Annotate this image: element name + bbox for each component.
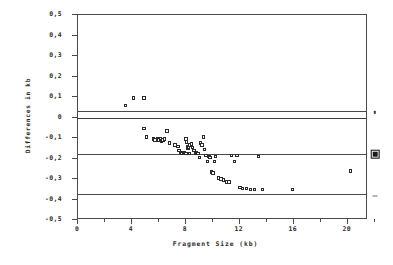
y-axis-tick-label: 0,4 — [22, 31, 62, 39]
x-axis-minor-tick-mark — [266, 219, 267, 222]
x-axis-tick-label: 0 — [62, 225, 92, 233]
data-point — [202, 135, 205, 138]
x-axis-minor-tick-mark — [158, 219, 159, 222]
data-point — [208, 156, 211, 159]
mean-marker — [372, 151, 379, 158]
data-point — [132, 96, 135, 99]
x-axis-tick-mark — [239, 219, 240, 224]
data-point — [253, 188, 256, 191]
dash-icon — [373, 196, 378, 197]
y-axis-tick-label: -0,4 — [22, 195, 62, 203]
y-axis-tick-label: 0,5 — [22, 10, 62, 18]
data-point — [206, 160, 209, 163]
data-point — [165, 129, 168, 132]
data-point — [200, 143, 203, 146]
x-axis-tick-label: 4 — [116, 225, 146, 233]
data-point — [261, 188, 264, 191]
data-point — [176, 145, 179, 148]
data-point — [168, 141, 171, 144]
data-point — [211, 171, 214, 174]
data-point — [196, 152, 199, 155]
data-point — [241, 187, 244, 190]
upper-limit-of-agreement — [78, 111, 366, 112]
x-axis-tick-label: 16 — [278, 225, 308, 233]
data-point — [291, 188, 294, 191]
mean-difference — [78, 154, 366, 155]
data-point — [233, 160, 236, 163]
data-point — [188, 152, 191, 155]
zero-line — [78, 118, 366, 119]
data-point — [145, 135, 148, 138]
y-axis-tick-label: -0,3 — [22, 174, 62, 182]
y-axis-tick-label: 0,1 — [22, 92, 62, 100]
y-axis-tick-label: 0,3 — [22, 51, 62, 59]
y-axis-tick-label: -0,5 — [22, 215, 62, 223]
x-axis-tick-mark — [293, 219, 294, 224]
x-axis-minor-tick-mark — [104, 219, 105, 222]
y-axis-tick-label: 0 — [22, 113, 62, 121]
data-point — [249, 188, 252, 191]
data-point — [142, 127, 145, 130]
data-point — [257, 155, 260, 158]
y-axis-tick-label: -0,1 — [22, 133, 62, 141]
x-axis-tick-label: 12 — [224, 225, 254, 233]
data-point — [213, 160, 216, 163]
x-axis-tick-label: 20 — [332, 225, 362, 233]
scatter-chart-figure: Differences in kb 0,50,40,30,20,10-0,1-0… — [0, 0, 393, 265]
x-axis-minor-tick-mark — [212, 219, 213, 222]
data-point — [163, 137, 166, 140]
upper-limit-marker — [374, 111, 376, 113]
x-axis-tick-mark — [131, 219, 132, 224]
data-point — [349, 169, 352, 172]
sq-big-icon — [372, 151, 379, 158]
x-axis-tick-label: 8 — [170, 225, 200, 233]
lower-limit-of-agreement — [78, 194, 366, 195]
data-point — [124, 104, 127, 107]
data-point — [203, 148, 206, 151]
data-point — [227, 180, 230, 183]
data-point — [235, 154, 238, 157]
x-axis-tick-mark — [77, 219, 78, 224]
plot-area — [77, 14, 367, 219]
data-point — [142, 96, 145, 99]
data-point — [214, 155, 217, 158]
y-axis-tick-label: 0,2 — [22, 72, 62, 80]
x-axis-title: Fragment Size (kb) — [78, 240, 353, 248]
x-axis-tick-mark — [185, 219, 186, 224]
x-axis-tick-mark — [347, 219, 348, 224]
data-point — [198, 156, 201, 159]
data-point — [230, 154, 233, 157]
x-axis-minor-tick-mark — [374, 219, 375, 222]
sq-small-icon — [374, 111, 376, 113]
x-axis-minor-tick-mark — [320, 219, 321, 222]
y-axis-tick-label: -0,2 — [22, 154, 62, 162]
lower-limit-marker — [373, 196, 378, 197]
data-point — [245, 187, 248, 190]
